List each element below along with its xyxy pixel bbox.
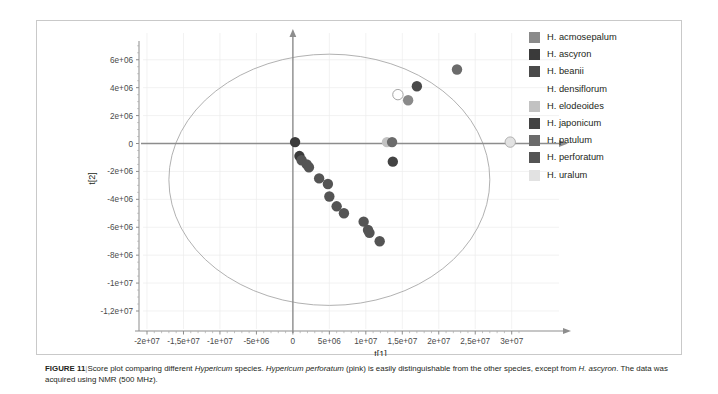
x-axis-tick-label: 1e+07 bbox=[354, 337, 377, 346]
y-axis-tick-label: 0 bbox=[128, 140, 133, 149]
y-axis-tick-label: 6e+06 bbox=[110, 56, 133, 65]
x-axis-tick-label: 3e+07 bbox=[500, 337, 523, 346]
legend-swatch bbox=[529, 101, 540, 112]
y-axis-tick-label: 4e+06 bbox=[110, 84, 133, 93]
legend-item[interactable]: H. uralum bbox=[529, 167, 679, 184]
data-point[interactable] bbox=[314, 173, 324, 183]
y-axis-tick-label: -2e+06 bbox=[107, 167, 133, 176]
legend-item[interactable]: H. perforatum bbox=[529, 149, 679, 166]
figure-frame: 6e+064e+062e+060-2e+06-4e+06-6e+06-8e+06… bbox=[36, 20, 682, 355]
legend-item-label: H. japonicum bbox=[547, 118, 601, 129]
legend-item[interactable]: H. beanii bbox=[529, 63, 679, 80]
y-axis-arrow bbox=[289, 29, 296, 37]
x-axis-tick-label: -2e+07 bbox=[134, 337, 160, 346]
data-point[interactable] bbox=[393, 89, 403, 99]
legend-swatch bbox=[529, 84, 540, 95]
figure-number: FIGURE 11 bbox=[45, 364, 85, 373]
legend-item[interactable]: H. elodeoides bbox=[529, 98, 679, 115]
y-axis-tick-label: -1,2e+07 bbox=[100, 307, 133, 316]
data-point[interactable] bbox=[324, 191, 334, 201]
data-point[interactable] bbox=[412, 81, 422, 91]
legend-item-label: H. acmosepalum bbox=[547, 32, 617, 43]
legend-item[interactable]: H. ascyron bbox=[529, 46, 679, 63]
legend-swatch bbox=[529, 118, 540, 129]
caption-text-3: (pink) is easily distinguishable from th… bbox=[344, 364, 579, 373]
x-axis-tick-label: 0 bbox=[291, 337, 296, 346]
x-axis-tick-label: 2e+07 bbox=[427, 337, 450, 346]
y-axis-tick-label: -6e+06 bbox=[107, 223, 133, 232]
data-point[interactable] bbox=[403, 95, 413, 105]
data-point[interactable] bbox=[339, 208, 349, 218]
legend-item[interactable]: H. patulum bbox=[529, 132, 679, 149]
legend-item[interactable]: H. japonicum bbox=[529, 115, 679, 132]
x-axis-tick-label: 2,5e+07 bbox=[460, 337, 490, 346]
x-axis-spine-arrow bbox=[563, 328, 571, 334]
legend-item-label: H. uralum bbox=[547, 170, 587, 181]
data-point[interactable] bbox=[387, 137, 397, 147]
data-point[interactable] bbox=[505, 137, 515, 147]
caption-text-1: Score plot comparing different bbox=[87, 364, 194, 373]
data-point[interactable] bbox=[290, 137, 300, 147]
legend-swatch bbox=[529, 49, 540, 60]
caption-italic-1: Hypericum bbox=[195, 364, 233, 373]
y-axis-tick-label: 2e+06 bbox=[110, 112, 133, 121]
legend-item-label: H. ascyron bbox=[547, 49, 591, 60]
legend-swatch bbox=[529, 152, 540, 163]
caption-italic-2: Hypericum perforatum bbox=[266, 364, 344, 373]
figure-root: 6e+064e+062e+060-2e+06-4e+06-6e+06-8e+06… bbox=[0, 0, 718, 394]
legend-swatch bbox=[529, 66, 540, 77]
x-axis-tick-label: -1e+07 bbox=[207, 337, 233, 346]
legend-item-label: H. elodeoides bbox=[547, 101, 604, 112]
y-axis-tick-label: -4e+06 bbox=[107, 195, 133, 204]
legend-item-label: H. patulum bbox=[547, 135, 592, 146]
legend-item-label: H. densiflorum bbox=[547, 84, 607, 95]
legend-swatch bbox=[529, 135, 540, 146]
y-axis-tick-label: -8e+06 bbox=[107, 251, 133, 260]
y-axis-title: t[2] bbox=[87, 172, 97, 185]
legend-item[interactable]: H. densiflorum bbox=[529, 81, 679, 98]
legend-item[interactable]: H. acmosepalum bbox=[529, 29, 679, 46]
data-point[interactable] bbox=[374, 236, 384, 246]
data-point[interactable] bbox=[364, 228, 374, 238]
caption-text-2: species. bbox=[232, 364, 265, 373]
legend-item-label: H. perforatum bbox=[547, 152, 604, 163]
caption-italic-3: H. ascyron bbox=[579, 364, 617, 373]
y-axis-tick-label: -1e+07 bbox=[107, 279, 133, 288]
data-point[interactable] bbox=[452, 64, 462, 74]
figure-caption: FIGURE 11|Score plot comparing different… bbox=[45, 364, 675, 385]
legend-swatch bbox=[529, 32, 540, 43]
data-point[interactable] bbox=[388, 156, 398, 166]
x-axis-tick-label: -1,5e+07 bbox=[167, 337, 200, 346]
legend: H. acmosepalum H. ascyron H. beanii H. d… bbox=[529, 29, 679, 184]
x-axis-tick-label: 5e+06 bbox=[318, 337, 341, 346]
data-point[interactable] bbox=[323, 179, 333, 189]
legend-item-label: H. beanii bbox=[547, 66, 584, 77]
x-axis-title: t[1] bbox=[374, 349, 387, 356]
legend-swatch bbox=[529, 170, 540, 181]
x-axis-tick-label: 1,5e+07 bbox=[387, 337, 417, 346]
x-axis-tick-label: -5e+06 bbox=[244, 337, 270, 346]
data-point[interactable] bbox=[304, 162, 314, 172]
